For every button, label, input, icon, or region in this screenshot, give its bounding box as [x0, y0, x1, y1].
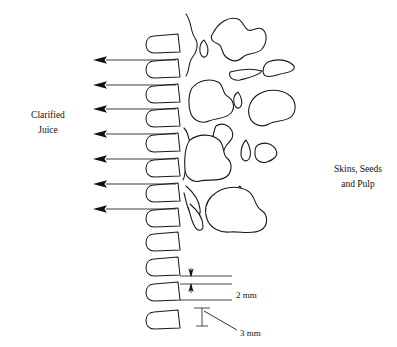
wedge-bar [146, 232, 180, 251]
wedge-depth-value: 3 mm [240, 328, 261, 338]
slot-gap-value: 2 mm [236, 290, 257, 300]
skins-seeds-pulp-label-line1: Skins, Seeds [334, 164, 382, 174]
wedge-bar [146, 59, 180, 78]
wedge-bar [146, 34, 180, 53]
wedge-bar [146, 208, 180, 227]
diagram-root: 2 mm 3 mm Clarified Juice Skins, Seeds a… [0, 0, 397, 347]
wedge-bar [146, 108, 180, 127]
wedge-bar [146, 183, 180, 202]
wedge-bar [146, 310, 180, 329]
finisher-screen-diagram: 2 mm 3 mm Clarified Juice Skins, Seeds a… [0, 0, 397, 347]
wedge-bar [146, 158, 180, 177]
wedge-bar [146, 84, 180, 103]
skins-seeds-pulp-label-line2: and Pulp [341, 179, 375, 189]
wedge-bar [146, 257, 180, 276]
clarified-juice-label-line2: Juice [38, 125, 58, 135]
wedge-bar [146, 133, 180, 152]
clarified-juice-label-line1: Clarified [31, 110, 65, 120]
wedge-bar [146, 282, 180, 301]
